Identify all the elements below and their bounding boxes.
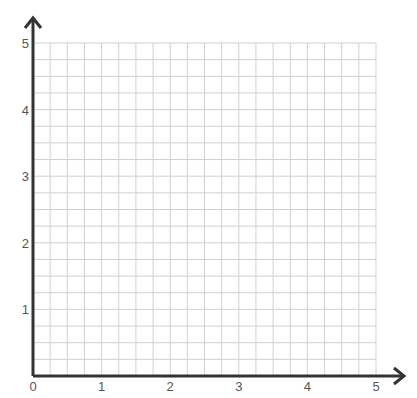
x-tick-label: 5 — [372, 379, 379, 394]
y-tick-label: 4 — [22, 103, 29, 118]
y-tick-label: 2 — [22, 236, 29, 251]
axes — [25, 18, 404, 384]
coordinate-grid-chart: 012345 12345 — [0, 0, 417, 398]
y-tick-label: 5 — [22, 36, 29, 51]
x-tick-label: 3 — [235, 379, 242, 394]
x-tick-label: 0 — [29, 379, 36, 394]
grid-lines — [33, 43, 376, 376]
x-tick-label: 1 — [98, 379, 105, 394]
x-tick-label: 4 — [304, 379, 311, 394]
x-tick-labels: 012345 — [29, 379, 379, 394]
y-tick-label: 1 — [22, 302, 29, 317]
y-tick-label: 3 — [22, 169, 29, 184]
y-tick-labels: 12345 — [22, 36, 29, 317]
x-tick-label: 2 — [167, 379, 174, 394]
